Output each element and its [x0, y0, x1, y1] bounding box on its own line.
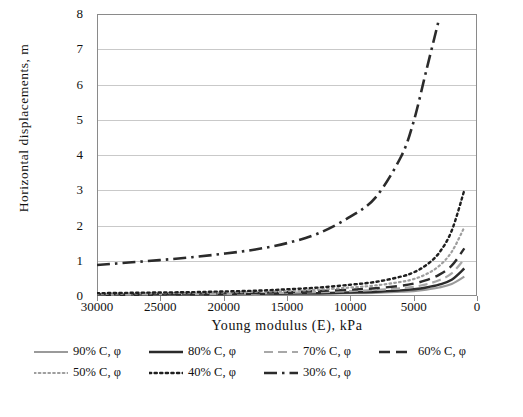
legend-item-6: 40% C, φ	[149, 365, 264, 380]
x-axis-title: Young modulus (E), kPa	[97, 318, 477, 334]
legend-swatch-icon	[379, 347, 413, 357]
legend-swatch-icon	[149, 347, 183, 357]
legend-item-1: 90% C, φ	[34, 344, 149, 359]
legend-label: 50% C, φ	[73, 365, 121, 380]
legend-label: 80% C, φ	[188, 344, 236, 359]
chart-figure: Horizontal displacements, m 012345678 30…	[0, 0, 523, 417]
series-line-7	[97, 19, 439, 265]
legend-item-2: 80% C, φ	[149, 344, 264, 359]
legend-item-7: 30% C, φ	[264, 365, 379, 380]
legend-swatch-icon	[34, 368, 68, 378]
series-line-6	[97, 190, 464, 293]
legend-label: 70% C, φ	[303, 344, 351, 359]
legend-swatch-icon	[264, 368, 298, 378]
legend-label: 90% C, φ	[73, 344, 121, 359]
legend-item-5: 50% C, φ	[34, 365, 149, 380]
legend-swatch-icon	[264, 347, 298, 357]
legend-item-3: 70% C, φ	[264, 344, 379, 359]
legend-label: 40% C, φ	[188, 365, 236, 380]
legend-swatch-icon	[34, 347, 68, 357]
chart-legend: 90% C, φ80% C, φ70% C, φ60% C, φ50% C, φ…	[34, 344, 494, 380]
legend-label: 30% C, φ	[303, 365, 351, 380]
legend-swatch-icon	[149, 368, 183, 378]
legend-label: 60% C, φ	[418, 344, 466, 359]
legend-item-4: 60% C, φ	[379, 344, 494, 359]
